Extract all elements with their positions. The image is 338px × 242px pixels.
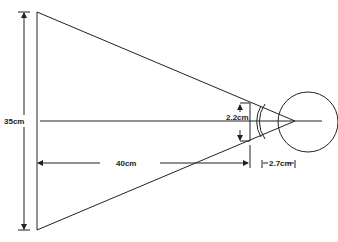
eye-circle [278,92,338,152]
retinal-height-label: 2.2cm [226,113,249,122]
viewing-distance-label: 40cm [116,159,136,168]
visual-angle-diagram: 35cm 40cm 2.2cm 2.7cm [0,0,338,242]
eye-depth-label: 2.7cm [269,159,292,168]
screen-height-label: 35cm [4,117,24,126]
